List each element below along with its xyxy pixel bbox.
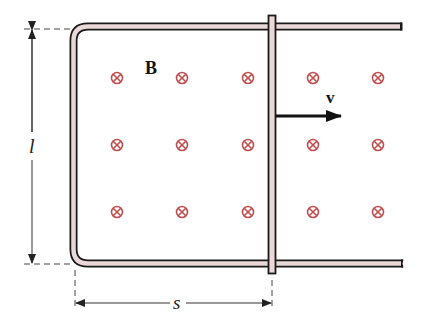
field-into-page-icon	[112, 73, 123, 84]
velocity-arrow: v	[276, 88, 341, 116]
field-into-page-icon	[373, 140, 384, 151]
field-into-page-icon	[308, 140, 319, 151]
field-into-page-icon	[373, 207, 384, 218]
magnetic-field-symbols	[112, 73, 384, 218]
field-into-page-icon	[308, 207, 319, 218]
sliding-bar	[269, 16, 276, 274]
field-into-page-icon	[243, 73, 254, 84]
sliding-bar-diagram: l s B v	[0, 0, 429, 327]
field-into-page-icon	[243, 140, 254, 151]
field-into-page-icon	[112, 140, 123, 151]
field-into-page-icon	[177, 140, 188, 151]
field-into-page-icon	[308, 73, 319, 84]
field-label: B	[145, 58, 157, 78]
field-into-page-icon	[177, 207, 188, 218]
separation-label: s	[173, 292, 180, 313]
field-into-page-icon	[112, 207, 123, 218]
velocity-label: v	[326, 88, 335, 107]
field-into-page-icon	[243, 207, 254, 218]
field-into-page-icon	[177, 73, 188, 84]
field-into-page-icon	[373, 73, 384, 84]
separation-dimension: s	[76, 292, 271, 313]
length-dimension: l	[29, 30, 35, 263]
length-label: l	[29, 135, 35, 157]
